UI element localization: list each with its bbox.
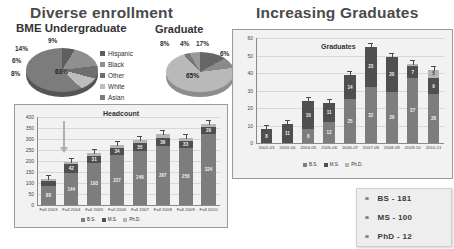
chart-legend-graduates: B.S. M.S. Ph.D. [303, 162, 363, 167]
bar-segment-ms: 8 [261, 129, 272, 143]
x-axis [256, 143, 444, 144]
bar-value-label: 11 [282, 131, 293, 136]
y-axis-tick: 50 [20, 191, 34, 197]
legend-item-phd: Ph.D. [123, 217, 141, 222]
bar-column: 2514 [344, 38, 355, 143]
bar-segment-ms: 36 [156, 138, 170, 146]
bar-column: 24635 [133, 117, 147, 205]
bullet-icon [365, 235, 369, 239]
y-axis [256, 38, 257, 143]
summary-label-phd: PhD - 12 [378, 232, 412, 241]
bar-value-label: 7 [407, 70, 418, 75]
y-axis-tick: 300 [20, 136, 34, 142]
legend-swatch-bs-2 [303, 163, 307, 167]
subtitle-bme-undergraduate: BME Undergraduate [16, 22, 127, 34]
legend-swatch-white [100, 84, 105, 89]
legend-label-black: Black [108, 61, 124, 68]
error-bar-cap [206, 120, 211, 121]
pie-label-u-asian: 63% [55, 68, 68, 75]
x-axis-label: 2010-11 [421, 145, 446, 150]
legend-item-bs-2: B.S. [303, 162, 318, 167]
legend-swatch-hispanic [100, 51, 105, 56]
bar-segment-bs: 12 [323, 122, 334, 143]
legend-label-white: White [108, 83, 125, 90]
pie-label-g-asian: 8% [160, 40, 169, 47]
pie-label-g-other: 65% [186, 72, 199, 79]
bar-segment-bs: 29 [386, 92, 397, 143]
legend-item-asian: Asian [100, 92, 133, 103]
bar-value-label: 29 [386, 115, 397, 120]
bar-segment-ms: 20 [386, 57, 397, 92]
error-bar-cap [306, 97, 311, 98]
bar-value-label: 5 [428, 71, 439, 76]
bar-segment-ms: 23 [365, 47, 376, 87]
bar-value-label: 33 [179, 142, 193, 147]
bar-value-label: 25 [344, 119, 355, 124]
bar-segment-ms: 7 [407, 66, 418, 78]
legend-swatch-ms [102, 218, 106, 222]
y-axis-tick: 40 [239, 70, 253, 76]
pie-legend: Hispanic Black Other White Asian [100, 48, 133, 103]
bar-column: 22734 [110, 117, 124, 205]
summary-row-phd: PhD - 12 [357, 227, 451, 246]
bar-column: 88 [41, 117, 55, 205]
legend-item-ms-2: M.S. [324, 162, 339, 167]
bar-value-label: 11 [323, 110, 334, 115]
x-axis [37, 205, 220, 206]
y-axis-tick: 400 [20, 114, 34, 120]
y-axis-tick: 150 [20, 169, 34, 175]
y-axis-tick: 250 [20, 147, 34, 153]
bar-column: 2920 [386, 38, 397, 143]
error-bar-cap [410, 60, 415, 61]
error-bar-cap [285, 120, 290, 121]
legend-item-hispanic: Hispanic [100, 48, 133, 59]
page-title-left: Diverse enrollment [30, 4, 173, 22]
legend-label-bs-2: B.S. [309, 162, 318, 167]
bar-segment-ms: 34 [110, 148, 124, 155]
bar-value-label: 324 [201, 167, 215, 172]
bar-value-label: 8 [302, 134, 313, 139]
bar-segment-phd: 5 [428, 70, 439, 79]
legend-label-asian: Asian [108, 94, 124, 101]
bar-column: 2895 [428, 38, 439, 143]
bar-segment-bs: 258 [179, 148, 193, 205]
error-bar-cap [327, 99, 332, 100]
bar-value-label: 12 [323, 130, 334, 135]
legend-label-hispanic: Hispanic [108, 50, 133, 57]
legend-item-black: Black [100, 59, 133, 70]
pie-label-u-hispanic: 9% [48, 37, 57, 44]
bar-column: 32429 [201, 117, 215, 205]
bar-segment-bs: 227 [110, 155, 124, 205]
legend-label-ms-2: M.S. [330, 162, 339, 167]
error-bar-cap [183, 134, 188, 135]
bar-segment-bs: 88 [41, 186, 55, 205]
error-bar-cap [264, 125, 269, 126]
bar-value-label: 23 [365, 64, 376, 69]
bar-value-label: 37 [407, 108, 418, 113]
legend-label-phd-2: Ph.D. [351, 162, 363, 167]
bar-value-label: 144 [64, 187, 78, 192]
bar-segment-ms: 9 [428, 78, 439, 94]
legend-swatch-bs [81, 218, 85, 222]
error-bar-cap [160, 130, 165, 131]
legend-swatch-phd-2 [345, 163, 349, 167]
y-axis-tick: 100 [20, 180, 34, 186]
bar-segment-ms: 11 [323, 103, 334, 122]
bar-value-label: 16 [302, 113, 313, 118]
bar-segment-bs: 144 [64, 173, 78, 205]
error-bar-cap [368, 43, 373, 44]
legend-item-other: Other [100, 70, 133, 81]
y-axis-tick: 60 [239, 35, 253, 41]
legend-label-ms: M.S. [108, 217, 117, 222]
bar-segment-bs: 28 [428, 94, 439, 143]
bar-value-label: 42 [64, 166, 78, 171]
error-bar-cap [115, 141, 120, 142]
bar-column: 816 [302, 38, 313, 143]
bar-segment-bs: 324 [201, 134, 215, 205]
bar-value-label: 28 [428, 116, 439, 121]
bar-segment-ms: 14 [344, 75, 355, 100]
bar-value-label: 29 [201, 128, 215, 133]
y-axis-tick: 30 [239, 88, 253, 94]
bar-value-label: 88 [41, 193, 55, 198]
bar-value-label: 32 [365, 113, 376, 118]
